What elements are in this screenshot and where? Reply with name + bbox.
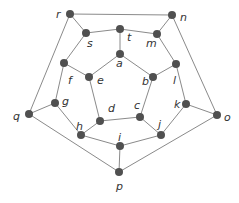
node-e (85, 73, 93, 81)
node-label-n: n (180, 11, 187, 24)
node-label-t: t (127, 31, 132, 44)
node-l (172, 60, 180, 68)
node-label-s: s (87, 37, 93, 50)
edge-r-n (70, 14, 172, 15)
edge-d-c (100, 117, 140, 121)
node-label-e: e (97, 74, 104, 87)
node-label-g: g (62, 95, 69, 108)
node-g (51, 99, 59, 107)
graph-diagram: rnstmafeblgdckqohijp (0, 0, 239, 203)
node-label-d: d (108, 102, 116, 115)
node-f (60, 59, 68, 67)
node-r (66, 10, 74, 18)
edge-h-i (81, 135, 120, 146)
node-p (115, 168, 123, 176)
node-s (82, 29, 90, 37)
edge-t-m (120, 29, 157, 34)
edge-o-p (119, 115, 217, 172)
node-label-j: j (156, 118, 162, 131)
node-label-f: f (68, 74, 74, 87)
node-o (213, 111, 221, 119)
node-c (136, 113, 144, 121)
graph-nodes (25, 10, 221, 176)
node-label-l: l (173, 74, 176, 87)
edge-a-b (120, 54, 153, 77)
node-label-m: m (146, 37, 157, 50)
node-label-q: q (13, 110, 20, 123)
node-label-r: r (56, 8, 62, 21)
edge-s-f (64, 33, 86, 63)
node-b (149, 73, 157, 81)
node-n (168, 11, 176, 19)
node-j (157, 131, 165, 139)
edge-s-t (86, 29, 120, 33)
edge-q-p (29, 114, 119, 172)
edge-m-l (157, 34, 176, 64)
node-q (25, 110, 33, 118)
node-label-o: o (224, 111, 231, 124)
node-d (96, 117, 104, 125)
node-label-b: b (142, 75, 149, 88)
node-t (116, 25, 124, 33)
node-label-h: h (76, 120, 83, 133)
edge-i-j (120, 135, 161, 146)
node-k (182, 100, 190, 108)
node-label-c: c (134, 99, 140, 112)
node-label-i: i (118, 131, 121, 144)
node-label-a: a (116, 57, 123, 70)
node-label-p: p (115, 180, 123, 193)
graph-labels: rnstmafeblgdckqohijp (13, 8, 231, 193)
node-label-k: k (174, 98, 181, 111)
